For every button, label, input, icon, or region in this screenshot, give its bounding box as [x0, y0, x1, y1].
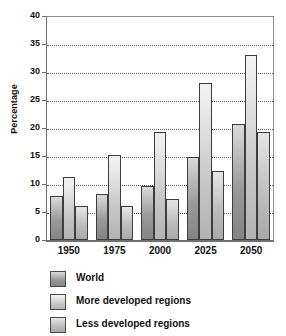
bar-1950-world [50, 196, 63, 240]
x-axis-line [46, 240, 274, 242]
legend-label: World [76, 272, 104, 283]
chart-legend: WorldMore developed regionsLess develope… [50, 268, 286, 336]
bar-2000-less-developed-regions [166, 199, 179, 240]
bar-1975-more-developed-regions [108, 155, 121, 240]
y-tick-mark-0 [42, 240, 46, 241]
legend-item-less-developed-regions: Less developed regions [50, 314, 286, 336]
bar-2025-more-developed-regions [199, 83, 212, 240]
bar-2050-more-developed-regions [245, 55, 258, 240]
bar-group-1975 [92, 16, 138, 240]
bar-2050-world [232, 124, 245, 240]
bar-2000-world [141, 186, 154, 240]
y-tick-label-35: 35 [0, 38, 40, 48]
bar-group-2025 [183, 16, 229, 240]
bar-group-1950 [46, 16, 92, 240]
bar-group-2000 [137, 16, 183, 240]
bar-chart-figure: Percentage 0510152025303540 195019752000… [0, 0, 286, 336]
y-tick-label-5: 5 [0, 206, 40, 216]
bar-1950-less-developed-regions [75, 206, 88, 240]
legend-label: More developed regions [76, 295, 191, 306]
x-tick-label-2050: 2050 [221, 245, 281, 256]
y-tick-label-15: 15 [0, 150, 40, 160]
bar-1950-more-developed-regions [63, 177, 76, 240]
legend-item-world: World [50, 268, 286, 291]
legend-swatch-world [50, 271, 66, 287]
bar-2025-world [187, 157, 200, 240]
legend-swatch-more [50, 294, 66, 310]
y-tick-label-25: 25 [0, 94, 40, 104]
bar-2025-less-developed-regions [212, 171, 225, 240]
bars-layer [46, 16, 274, 240]
y-tick-label-0: 0 [0, 234, 40, 244]
bar-2000-more-developed-regions [154, 132, 167, 240]
y-axis-title: Percentage [9, 64, 19, 154]
y-tick-label-20: 20 [0, 122, 40, 132]
legend-swatch-less [50, 317, 66, 333]
bar-group-2050 [228, 16, 274, 240]
legend-label: Less developed regions [76, 318, 190, 329]
chart-area: Percentage 0510152025303540 195019752000… [0, 0, 286, 262]
legend-item-more-developed-regions: More developed regions [50, 291, 286, 314]
bar-1975-world [96, 194, 109, 240]
y-tick-label-30: 30 [0, 66, 40, 76]
bar-2050-less-developed-regions [257, 132, 270, 240]
y-tick-label-40: 40 [0, 10, 40, 20]
y-tick-label-10: 10 [0, 178, 40, 188]
bar-1975-less-developed-regions [121, 206, 134, 240]
